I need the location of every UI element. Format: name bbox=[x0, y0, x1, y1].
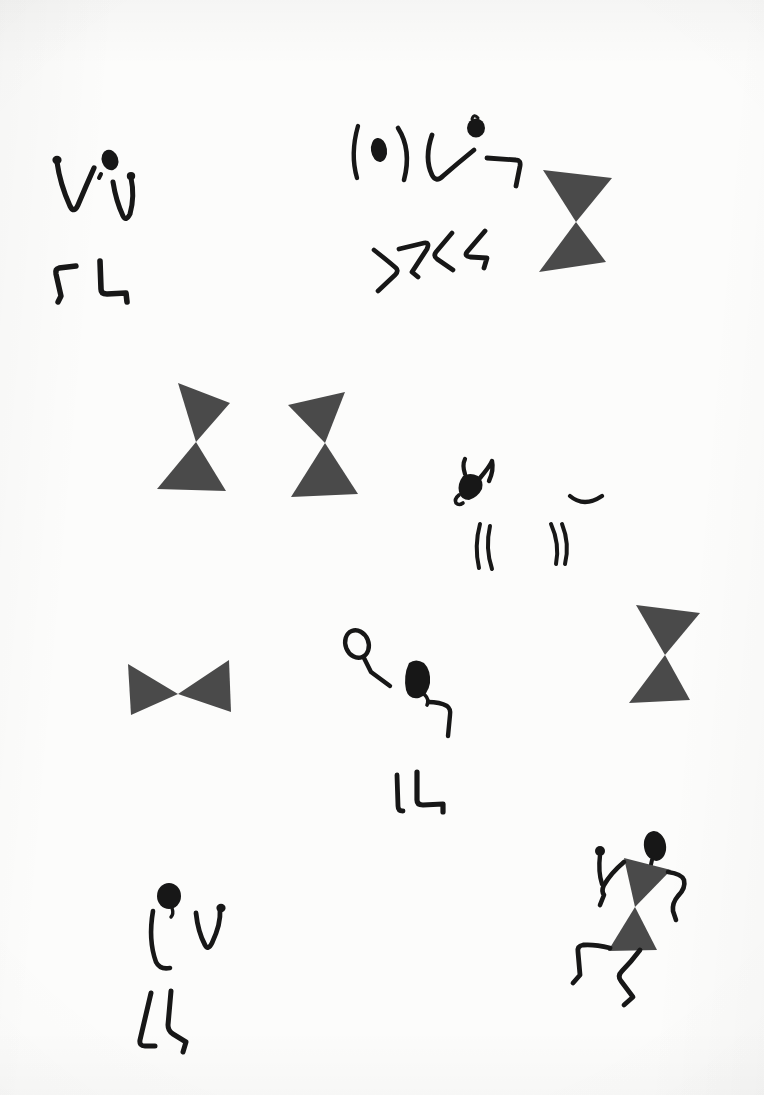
upper-triangle bbox=[178, 383, 230, 442]
hook-stroke-right bbox=[487, 158, 520, 186]
oval-stalk-stroke bbox=[364, 658, 390, 686]
partial-figure-low-center bbox=[341, 627, 450, 812]
bent-arm-stroke bbox=[428, 702, 450, 736]
lower-triangle bbox=[629, 655, 690, 703]
lower-triangle bbox=[539, 222, 606, 272]
left-leg-stroke bbox=[56, 266, 76, 302]
right-fist-dot bbox=[127, 172, 135, 180]
bent-v-arm bbox=[428, 135, 474, 179]
right-arm-stroke bbox=[113, 178, 133, 219]
neck-tick bbox=[99, 174, 101, 178]
partial-figure-upper-left bbox=[52, 147, 135, 302]
lower-triangle bbox=[291, 443, 358, 497]
right-v-arm bbox=[196, 910, 220, 948]
leg-arc-right-b bbox=[562, 524, 567, 564]
zigzag-leg-2 bbox=[399, 243, 428, 277]
right-curved-arm bbox=[398, 128, 407, 180]
hourglass-torso-mid-left bbox=[157, 383, 230, 491]
right-horn bbox=[480, 461, 493, 481]
hourglass-torso-upper-right bbox=[539, 170, 612, 272]
head-blob bbox=[157, 883, 181, 909]
partial-figure-upper-center bbox=[354, 116, 520, 291]
left-triangle bbox=[128, 664, 178, 715]
artwork-layer bbox=[0, 0, 764, 1095]
leg-arc-left-a bbox=[477, 524, 480, 568]
filled-head-blob bbox=[405, 661, 430, 699]
head-mass bbox=[467, 119, 485, 138]
artwork-canvas bbox=[0, 0, 764, 1095]
left-curved-arm bbox=[151, 911, 170, 968]
torso-upper-triangle bbox=[624, 858, 671, 907]
zigzag-leg-1 bbox=[374, 250, 397, 291]
left-leg-stroke bbox=[397, 775, 403, 811]
head-blob bbox=[99, 147, 121, 172]
horned-animal-head bbox=[455, 459, 602, 569]
oval-head-blob bbox=[369, 137, 388, 163]
left-horn bbox=[464, 459, 466, 474]
leg-arc-left-b bbox=[488, 526, 492, 569]
bowtie-torso-horizontal bbox=[128, 660, 231, 715]
left-leg-stroke bbox=[573, 945, 610, 983]
leg-arc-right-a bbox=[551, 524, 557, 564]
upper-triangle bbox=[636, 605, 700, 655]
lower-triangle bbox=[157, 442, 226, 491]
right-leg-stroke bbox=[417, 772, 443, 812]
partial-figure-bottom-left bbox=[140, 883, 226, 1052]
right-leg-stroke bbox=[619, 950, 640, 1005]
upper-triangle bbox=[543, 170, 612, 222]
hourglass-torso-low-right bbox=[629, 605, 700, 703]
hourglass-torso-mid-center bbox=[288, 392, 358, 497]
torso-lower-triangle bbox=[608, 907, 657, 951]
right-leg-stroke bbox=[168, 991, 186, 1052]
upper-triangle bbox=[288, 392, 345, 443]
zigzag-leg-4 bbox=[466, 231, 487, 268]
curved-arc-right bbox=[570, 496, 602, 502]
horn-stroke bbox=[472, 116, 478, 119]
left-leg-stroke bbox=[140, 993, 155, 1046]
left-curved-arm bbox=[354, 126, 358, 178]
left-arm-stroke bbox=[57, 162, 94, 210]
open-oval-head bbox=[341, 627, 373, 662]
left-fist-dot bbox=[52, 156, 61, 164]
right-triangle bbox=[178, 660, 231, 712]
small-horned-head bbox=[467, 116, 485, 138]
dancing-figure-complete bbox=[573, 829, 684, 1005]
head-blob bbox=[642, 829, 669, 862]
zigzag-leg-3 bbox=[435, 233, 453, 270]
right-fist-dot bbox=[216, 904, 225, 912]
artwork-page bbox=[0, 0, 764, 1095]
left-upper-arm-stroke bbox=[599, 855, 602, 884]
right-leg-stroke bbox=[100, 261, 127, 302]
neck-tick bbox=[171, 908, 173, 917]
right-arm-stroke bbox=[668, 872, 684, 920]
